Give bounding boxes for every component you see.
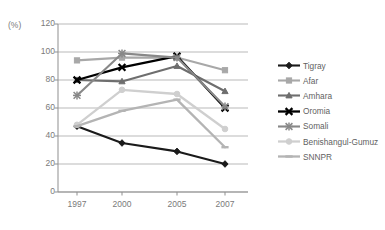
data-point xyxy=(174,148,180,155)
data-point xyxy=(222,68,227,73)
legend-item-amhara[interactable]: Amhara xyxy=(278,88,385,103)
gridlines xyxy=(58,24,248,192)
data-point xyxy=(222,126,228,132)
data-point xyxy=(73,91,81,99)
legend-item-snnpr[interactable]: SNNPR xyxy=(278,149,385,164)
data-point xyxy=(221,103,229,111)
legend-marker-icon xyxy=(278,75,300,86)
series-line xyxy=(77,66,225,91)
legend-item-label: Tigray xyxy=(303,61,326,71)
legend-marker-icon xyxy=(278,106,300,117)
series-amhara xyxy=(74,63,228,94)
legend-point xyxy=(286,139,292,145)
data-point xyxy=(222,161,228,168)
data-point xyxy=(118,49,126,57)
legend-item-oromia[interactable]: Oromia xyxy=(278,104,385,119)
legend-point xyxy=(285,122,293,130)
legend-marker-icon xyxy=(278,151,300,162)
series-line xyxy=(77,126,225,164)
series-line xyxy=(77,58,225,71)
line-chart: (%) 120100806040200 1997200020052007 Tig… xyxy=(0,0,385,230)
legend-item-somali[interactable]: Somali xyxy=(278,119,385,134)
legend-item-afar[interactable]: Afar xyxy=(278,73,385,88)
legend-item-label: Somali xyxy=(303,121,328,131)
axis-lines xyxy=(55,24,249,196)
series-snnpr xyxy=(73,100,228,148)
chart-legend: TigrayAfarAmharaOromiaSomaliBenishangul-… xyxy=(278,58,385,164)
data-point xyxy=(173,54,181,62)
data-point xyxy=(174,91,180,97)
legend-point xyxy=(286,78,291,83)
legend-marker-icon xyxy=(278,90,300,101)
legend-marker-icon xyxy=(278,60,300,71)
series-afar xyxy=(74,55,227,73)
legend-item-label: Amhara xyxy=(303,91,332,101)
series-tigray xyxy=(74,123,228,167)
legend-item-benishangul-gumuz[interactable]: Benishangul-Gumuz xyxy=(278,134,385,149)
series-line xyxy=(77,90,225,129)
legend-item-label: SNNPR xyxy=(303,152,332,162)
series-oromia xyxy=(74,53,229,112)
legend-item-tigray[interactable]: Tigray xyxy=(278,58,385,73)
legend-point xyxy=(286,62,292,69)
data-point xyxy=(119,140,125,147)
data-point xyxy=(74,58,79,63)
legend-item-label: Benishangul-Gumuz xyxy=(303,137,378,147)
data-point xyxy=(119,87,125,93)
legend-marker-icon xyxy=(278,121,300,132)
legend-item-label: Oromia xyxy=(303,106,330,116)
legend-marker-icon xyxy=(278,136,300,147)
series-benishangul-gumuz xyxy=(74,87,228,132)
legend-item-label: Afar xyxy=(303,76,318,86)
